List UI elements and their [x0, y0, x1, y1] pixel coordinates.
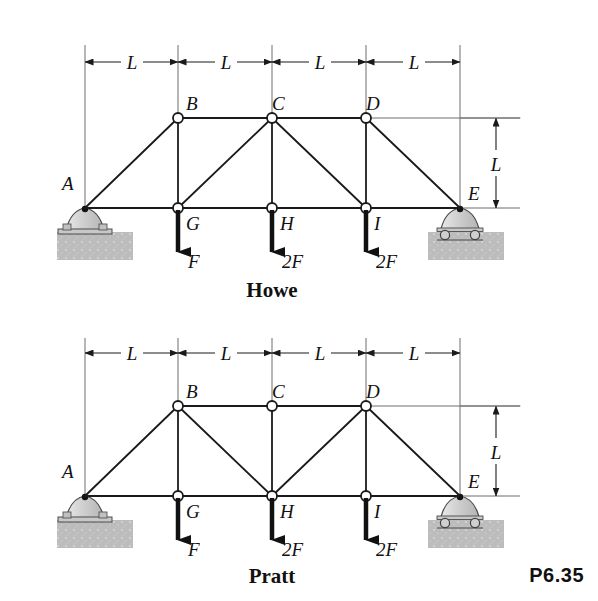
pratt-label-D: D	[365, 381, 380, 402]
howe-label-G: G	[186, 213, 200, 234]
pratt-label-H: H	[279, 501, 295, 522]
howe-loads	[178, 210, 366, 252]
pratt-label-B: B	[186, 381, 198, 402]
howe-label-B: B	[186, 93, 198, 114]
pratt-load-label-H: 2F	[282, 539, 304, 560]
pratt-span-label-2: L	[220, 343, 232, 364]
howe-caption: Howe	[246, 278, 297, 302]
howe-label-H: H	[279, 213, 295, 234]
howe-truss-group: L L L L L	[57, 45, 520, 302]
pratt-members	[85, 406, 520, 496]
howe-load-label-G: F	[187, 251, 200, 272]
pratt-height-label: L	[490, 442, 502, 463]
pratt-span-label-1: L	[126, 343, 138, 364]
truss-diagram-svg: L L L L L	[0, 0, 598, 601]
howe-height-label: L	[490, 154, 502, 175]
pratt-load-label-G: F	[187, 539, 200, 560]
pratt-label-G: G	[186, 501, 200, 522]
pratt-ground-right	[428, 520, 504, 548]
joint-D	[361, 113, 371, 123]
howe-load-label-I: 2F	[376, 251, 398, 272]
howe-label-D: D	[365, 93, 380, 114]
pratt-truss-group: L L L L L	[57, 338, 520, 588]
howe-span-label-4: L	[408, 52, 420, 73]
member-B-H	[178, 406, 272, 496]
howe-span-label-3: L	[314, 52, 326, 73]
pratt-caption: Pratt	[249, 564, 296, 588]
member-D-E	[366, 118, 460, 208]
member-D-E	[366, 406, 460, 496]
truss-figure: L L L L L	[0, 0, 598, 601]
pratt-label-I: I	[373, 501, 382, 522]
pratt-loads	[178, 498, 366, 540]
howe-ground-left	[57, 232, 133, 260]
joint-C	[267, 113, 277, 123]
howe-label-A: A	[60, 173, 74, 194]
pratt-label-E: E	[467, 471, 480, 492]
joint-B	[173, 113, 183, 123]
pratt-load-label-I: 2F	[376, 539, 398, 560]
member-C-I	[272, 118, 366, 208]
pratt-span-label-4: L	[408, 343, 420, 364]
howe-span-label-1: L	[126, 52, 138, 73]
howe-label-E: E	[467, 183, 480, 204]
joint-D	[361, 401, 371, 411]
member-A-B	[85, 406, 178, 496]
pratt-span-label-3: L	[314, 343, 326, 364]
pratt-label-A: A	[60, 461, 74, 482]
howe-members	[85, 118, 520, 208]
howe-pin-support-A	[58, 206, 112, 234]
member-H-D	[272, 406, 366, 496]
member-G-C	[178, 118, 272, 208]
howe-label-I: I	[373, 213, 382, 234]
pratt-pin-support-A	[58, 494, 112, 522]
howe-label-C: C	[272, 93, 285, 114]
joint-B	[173, 401, 183, 411]
howe-span-label-2: L	[220, 52, 232, 73]
problem-label: P6.35	[529, 564, 584, 587]
howe-ground-right	[428, 232, 504, 260]
howe-load-label-H: 2F	[282, 251, 304, 272]
joint-C	[267, 401, 277, 411]
pratt-ground-left	[57, 520, 133, 548]
pratt-label-C: C	[272, 381, 285, 402]
member-A-B	[85, 118, 178, 208]
